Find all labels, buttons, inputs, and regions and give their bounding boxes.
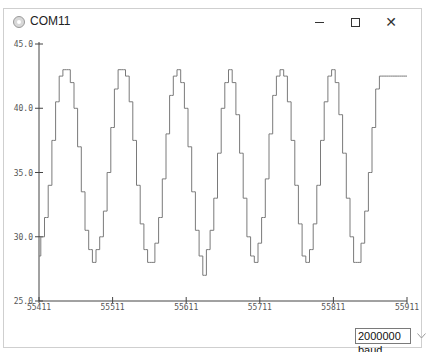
x-tick-label: 55511 (101, 303, 125, 312)
chevron-down-icon (417, 331, 426, 341)
serial-plotter-window: COM11 ✕ 25.030.035.040.045.0554115551155… (0, 0, 426, 352)
y-tick-label: 40.0 (14, 104, 33, 113)
x-tick-label: 55411 (27, 303, 51, 312)
serial-plot-chart: 25.030.035.040.045.055411555115561155711… (0, 0, 426, 352)
x-tick-label: 55811 (321, 303, 345, 312)
x-tick-label: 55711 (248, 303, 272, 312)
y-tick-label: 35.0 (14, 169, 33, 178)
baud-rate-dropdown[interactable]: 2000000 baud (355, 328, 426, 344)
x-tick-label: 55611 (174, 303, 198, 312)
y-tick-label: 30.0 (14, 233, 33, 242)
plot-area: 25.030.035.040.045.055411555115561155711… (0, 0, 426, 352)
baud-rate-value: 2000000 baud (355, 328, 411, 344)
data-series-line (39, 70, 407, 276)
x-tick-label: 55911 (395, 303, 419, 312)
y-tick-label: 45.0 (14, 40, 33, 49)
